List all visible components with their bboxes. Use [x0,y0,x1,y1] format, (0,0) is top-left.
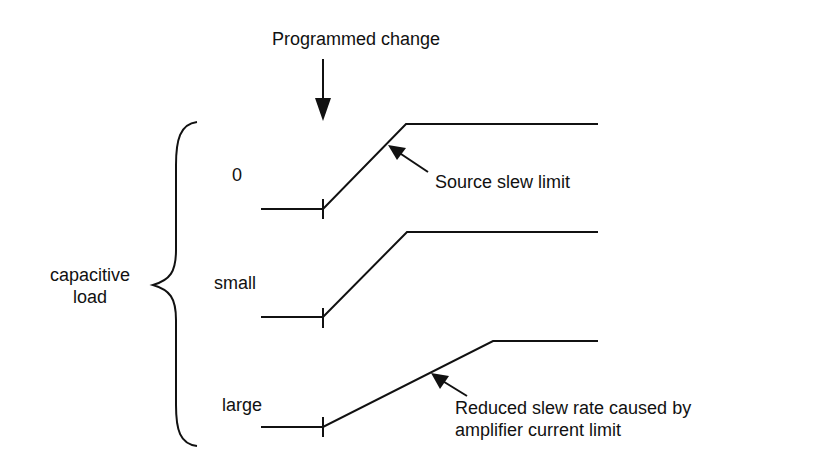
row-label-small: small [214,272,256,294]
reduced-slew-rate-label-line2: amplifier current limit [455,419,691,441]
source-slew-arrow-icon [388,145,428,172]
programmed-change-label: Programmed change [272,28,440,50]
curly-brace-icon [153,122,197,446]
programmed-change-arrow-icon [315,59,331,121]
trace-small-load [261,232,598,328]
reduced-slew-rate-label-line1: Reduced slew rate caused by [455,397,691,419]
source-slew-limit-label: Source slew limit [435,171,570,193]
capacitive-load-label: capacitive load [30,264,150,308]
capacitive-load-label-line2: load [30,286,150,308]
row-label-zero: 0 [232,164,242,186]
row-label-large: large [222,394,262,416]
diagram-canvas: Programmed change capacitive load 0 smal… [0,0,823,475]
capacitive-load-label-line1: capacitive [30,264,150,286]
diagram-graphics [0,0,823,475]
reduced-slew-rate-label: Reduced slew rate caused by amplifier cu… [455,397,691,441]
reduced-slew-arrow-icon [431,373,467,396]
